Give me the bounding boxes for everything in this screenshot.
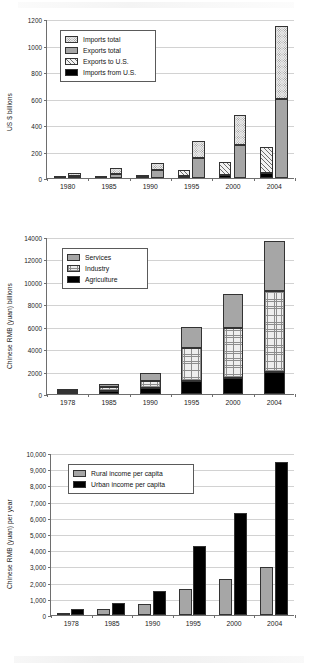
bar-segment — [99, 387, 120, 391]
y-axis-tick — [48, 503, 51, 504]
bar-segment — [57, 389, 78, 391]
bar — [68, 173, 80, 178]
bar — [223, 294, 244, 394]
gridline — [51, 567, 294, 568]
x-axis-tick — [92, 615, 93, 618]
bar-segment — [260, 567, 273, 615]
chart-legend: ServicesIndustryAgriculture — [62, 248, 148, 289]
gridline — [47, 305, 294, 306]
bar-segment — [260, 173, 272, 178]
x-axis-tick — [254, 615, 255, 618]
y-axis-tick-label: 1,000 — [30, 596, 46, 603]
bar-segment — [151, 163, 163, 170]
y-axis-tick-label: 2000 — [28, 369, 42, 376]
chart-income-figure: Chinese RMB (yuan) per year01,0002,0003,… — [0, 444, 312, 656]
bar — [54, 177, 66, 179]
bar-segment — [97, 609, 110, 615]
x-axis-tick — [212, 178, 213, 181]
gridline — [51, 551, 294, 552]
legend-item: Exports to U.S. — [65, 56, 150, 67]
chart-trade-figure: US $ billions020040060080010001200198019… — [0, 8, 312, 220]
bar-segment — [57, 613, 70, 615]
x-axis-tick — [130, 178, 131, 181]
bar-segment — [57, 391, 78, 393]
bar-segment — [275, 462, 288, 615]
bar — [219, 579, 232, 615]
y-axis-tick-label: 6,000 — [30, 515, 46, 522]
bar — [110, 168, 122, 178]
y-axis-tick — [44, 153, 47, 154]
legend-item-label: Exports to U.S. — [83, 58, 129, 65]
bar-segment — [219, 579, 232, 615]
bar-segment — [95, 176, 107, 178]
x-axis-tick-label: 1990 — [143, 183, 158, 190]
x-axis-tick — [212, 394, 213, 397]
gridline — [51, 454, 294, 455]
y-axis-tick — [44, 350, 47, 351]
bar — [264, 241, 285, 394]
bar-segment — [153, 591, 166, 615]
bar-segment — [179, 589, 192, 615]
y-axis-tick — [48, 535, 51, 536]
bar — [179, 589, 192, 615]
y-axis-tick — [44, 20, 47, 21]
x-axis-tick-label: 2004 — [267, 183, 282, 190]
gridline — [47, 328, 294, 329]
x-axis-tick-label: 2000 — [225, 399, 240, 406]
bar-segment — [136, 175, 148, 177]
y-axis-tick-label: 14000 — [24, 235, 42, 242]
y-axis-label: Chinese RMB (yuan) billions — [6, 256, 13, 396]
bar-segment — [181, 348, 202, 380]
legend-item: Imports from U.S. — [65, 67, 150, 78]
x-axis-tick — [132, 615, 133, 618]
y-axis-tick — [44, 126, 47, 127]
bar-segment — [140, 373, 161, 381]
chart-gdp-sector-figure: Chinese RMB (yuan) billions0200040006000… — [0, 228, 312, 436]
y-axis-tick-label: 9,000 — [30, 467, 46, 474]
x-axis-tick — [295, 615, 296, 618]
y-axis-tick-label: 0 — [38, 392, 42, 399]
bar — [275, 26, 287, 178]
x-axis-tick-label: 2000 — [226, 620, 241, 627]
x-axis-tick — [51, 615, 52, 618]
x-axis-tick — [47, 394, 48, 397]
legend-item: Exports total — [65, 45, 150, 56]
y-axis-tick-label: 10,000 — [26, 451, 46, 458]
gridline — [51, 503, 294, 504]
bar — [275, 462, 288, 615]
y-axis-tick — [44, 47, 47, 48]
x-axis-tick-label: 1980 — [60, 183, 75, 190]
y-axis-tick — [44, 373, 47, 374]
y-axis-tick-label: 5,000 — [30, 532, 46, 539]
y-axis-tick-label: 1200 — [28, 17, 42, 24]
gridline — [47, 126, 294, 127]
bar-segment — [68, 173, 80, 176]
figure-page: US $ billions020040060080010001200198019… — [0, 0, 312, 663]
bar — [260, 567, 273, 615]
x-axis-tick-label: 1985 — [101, 399, 116, 406]
bar — [95, 177, 107, 179]
x-axis-tick-label: 1978 — [64, 620, 79, 627]
legend-item: Rural income per capita — [73, 468, 188, 479]
gridline — [47, 153, 294, 154]
x-axis-tick — [173, 615, 174, 618]
legend-item-label: Urban income per capita — [91, 481, 165, 488]
x-axis-tick — [214, 615, 215, 618]
chart-legend: Imports totalExports totalExports to U.S… — [60, 30, 156, 82]
bar — [112, 603, 125, 615]
bar — [192, 141, 204, 178]
x-axis-tick-label: 1985 — [104, 620, 119, 627]
legend-item-label: Services — [85, 254, 111, 261]
y-axis-tick — [44, 100, 47, 101]
legend-item-label: Imports total — [83, 36, 120, 43]
gridline — [51, 519, 294, 520]
bar — [57, 390, 78, 394]
y-axis-tick-label: 4,000 — [30, 548, 46, 555]
bar-segment — [71, 609, 84, 615]
bar — [151, 163, 163, 178]
legend-item: Industry — [67, 263, 142, 274]
bar-segment — [223, 378, 244, 394]
y-axis-tick — [48, 486, 51, 487]
y-axis-tick — [48, 600, 51, 601]
y-axis-tick-label: 0 — [42, 613, 46, 620]
